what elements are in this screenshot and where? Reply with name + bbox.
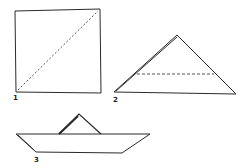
step-2-label: 2	[113, 96, 118, 104]
step-3-boat	[16, 114, 150, 153]
step-3-label: 3	[34, 156, 39, 164]
step-1-label: 1	[13, 94, 18, 102]
diagonal-fold-line	[18, 11, 98, 90]
diagram-canvas: 1 2 3	[0, 0, 248, 168]
step-1-square	[15, 9, 101, 93]
step-2-triangle	[114, 35, 236, 94]
